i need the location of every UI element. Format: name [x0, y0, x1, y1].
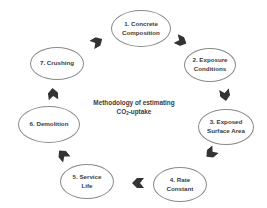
- arrow-7-to-1-icon: [89, 35, 104, 50]
- step-4-line-1: 4. Rate: [167, 176, 194, 185]
- arrow-3-to-4-icon: [203, 145, 219, 160]
- step-5-line-2: Life: [73, 182, 102, 191]
- arrow-5-to-6-icon: [55, 147, 70, 163]
- title-uptake: -uptake: [129, 108, 152, 115]
- title-line-1: Methodology of estimating: [84, 98, 184, 107]
- step-5-line-1: 5. Service: [73, 173, 102, 182]
- step-4-line-2: Constant: [167, 185, 194, 194]
- step-6-line-1: 6. Demolition: [30, 120, 69, 129]
- step-2-exposure-conditions: 2. Exposure Conditions: [184, 48, 236, 82]
- step-7-crushing: 7. Crushing: [30, 47, 84, 80]
- title-co: CO: [117, 108, 127, 115]
- arrow-6-to-7-icon: [47, 88, 58, 101]
- title-line-2: CO2-uptake: [84, 107, 184, 118]
- step-1-concrete-composition: 1. Concrete Composition: [111, 10, 171, 47]
- step-5-service-life: 5. Service Life: [60, 164, 114, 199]
- arrow-1-to-2-icon: [173, 34, 188, 48]
- step-1-line-1: 1. Concrete: [122, 20, 160, 29]
- step-4-rate-constant: 4. Rate Constant: [153, 167, 207, 202]
- step-6-demolition: 6. Demolition: [18, 106, 80, 143]
- step-3-line-2: Surface Area: [207, 127, 245, 136]
- step-3-line-1: 3. Exposed: [207, 118, 245, 127]
- diagram-title: Methodology of estimating CO2-uptake: [84, 98, 184, 118]
- arrow-4-to-5-icon: [132, 178, 144, 188]
- step-1-line-2: Composition: [122, 29, 160, 38]
- step-2-line-1: 2. Exposure: [192, 56, 227, 65]
- step-3-exposed-surface-area: 3. Exposed Surface Area: [198, 109, 254, 145]
- step-7-line-1: 7. Crushing: [40, 59, 74, 68]
- step-2-line-2: Conditions: [192, 65, 227, 74]
- arrow-2-to-3-icon: [219, 88, 231, 102]
